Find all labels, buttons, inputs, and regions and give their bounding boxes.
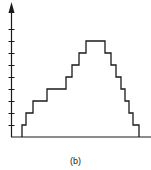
y-axis-arrow-icon [9, 2, 15, 13]
step-chart [0, 0, 151, 170]
figure-caption: (b) [0, 156, 151, 166]
step-series [22, 41, 139, 137]
